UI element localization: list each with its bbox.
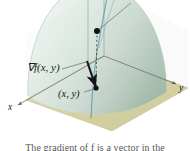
surface-point-dot <box>94 28 100 34</box>
figure-caption: The gradient of f is a vector in the <box>0 142 190 151</box>
domain-point-dot <box>93 85 98 90</box>
point-label: (x, y) <box>58 88 80 100</box>
y-axis-label: y <box>178 83 184 93</box>
gradient-label: ∇f(x, y) <box>27 61 60 74</box>
gradient-surface-diagram: ∇f(x, y) (x, y) x y <box>0 0 190 151</box>
x-axis-label: x <box>7 102 13 112</box>
figure-container: ∇f(x, y) (x, y) x y The gradient of f is… <box>0 0 190 151</box>
